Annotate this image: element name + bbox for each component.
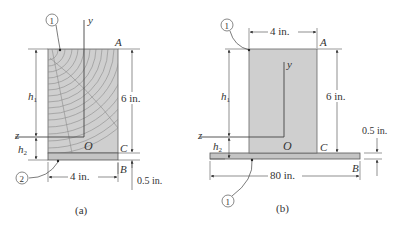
origin-label-b: O (283, 139, 292, 153)
point-B-label-a: B (120, 163, 127, 175)
height-label-a: 6 in. (121, 92, 141, 104)
svg-text:1: 1 (50, 16, 55, 26)
y-axis-label-b: y (286, 58, 292, 70)
svg-text:1: 1 (226, 197, 231, 207)
panel-a: h1 h2 6 in. 0.5 in. 4 in. y z O A C B 1 … (14, 14, 162, 217)
composite-beam-diagram: h1 h2 6 in. 0.5 in. 4 in. y z O A C B 1 … (0, 0, 408, 226)
width-label-a: 4 in. (70, 170, 90, 182)
z-axis-label-b: z (197, 129, 203, 141)
point-C-label-a: C (120, 142, 128, 154)
point-B-label-b: B (352, 162, 359, 174)
steel-plate-a (48, 153, 118, 160)
svg-text:h2: h2 (213, 140, 223, 154)
panel-b: 4 in. h1 h2 6 in. 0.5 in. 80 in. y z O A… (197, 19, 387, 215)
point-C-label-b: C (320, 141, 328, 153)
svg-text:2: 2 (20, 174, 25, 184)
height-label-b: 6 in. (326, 90, 346, 102)
plank-b (210, 153, 360, 159)
y-axis-label-a: y (87, 14, 93, 26)
point-A-label-a: A (114, 36, 122, 48)
svg-text:h2: h2 (18, 143, 28, 157)
point-A-label-b: A (319, 36, 327, 48)
z-axis-label-a: z (14, 129, 20, 141)
caption-b: (b) (276, 202, 289, 215)
svg-text:1: 1 (225, 21, 230, 31)
origin-label-a: O (84, 139, 93, 153)
width-label-b: 4 in. (270, 25, 290, 37)
plate-thickness-label-a: 0.5 in. (137, 175, 162, 186)
plate-thickness-label-b: 0.5 in. (362, 125, 387, 136)
caption-a: (a) (75, 204, 88, 217)
plank-width-label-b: 80 in. (270, 169, 295, 181)
